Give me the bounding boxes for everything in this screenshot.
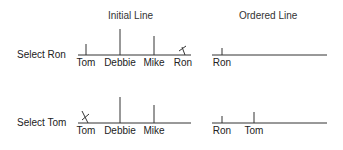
name-debbie: Debbie [104, 57, 136, 68]
ordered-name-tom: Tom [245, 125, 264, 136]
name-ron: Ron [174, 57, 192, 68]
name-debbie: Debbie [104, 125, 136, 136]
line-diagram [0, 0, 343, 150]
name-tom: Tom [77, 125, 96, 136]
strike-mark-ron [179, 46, 186, 51]
ordered-name-ron: Ron [213, 57, 231, 68]
name-tom: Tom [77, 57, 96, 68]
name-mike: Mike [143, 57, 164, 68]
ordered-name-ron: Ron [213, 125, 231, 136]
name-mike: Mike [143, 125, 164, 136]
